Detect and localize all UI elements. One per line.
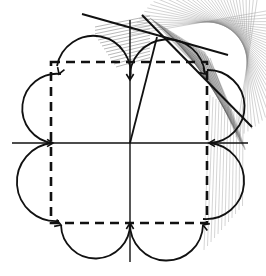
hatch-line [94, 22, 150, 34]
hatch-line [218, 103, 222, 234]
semicircle-arc-5 [130, 223, 203, 261]
hatch-line [222, 105, 226, 230]
semicircle-arc-1 [57, 36, 131, 80]
semicircle-arc-6 [61, 223, 130, 259]
arrowhead-icon [203, 224, 210, 231]
hatch-line [100, 32, 150, 43]
arrowhead-icon [58, 67, 65, 74]
semicircle-arc-8 [22, 74, 61, 143]
semicircle-arc-7 [17, 143, 59, 221]
hatch-line [225, 107, 228, 226]
hatch-line [161, 0, 266, 56]
hatch-line [102, 35, 150, 46]
cusp-arrowheads [47, 67, 215, 230]
diagram-canvas [0, 0, 266, 276]
construction-figure [0, 0, 266, 276]
hatch-line [229, 109, 232, 222]
